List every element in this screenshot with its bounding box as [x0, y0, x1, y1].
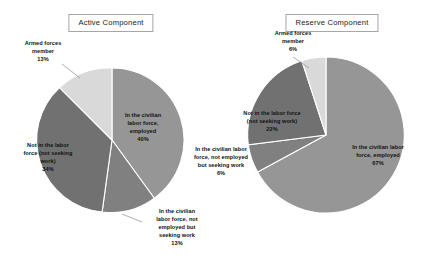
- leader-seeking-work: [122, 214, 142, 222]
- reserve-label-employed: In the civilian labor force, employed 67…: [336, 144, 420, 168]
- reserve-label-not-in-labor-force: Not in the labor force (not seeking work…: [226, 110, 318, 134]
- leader-armed-forces: [62, 64, 80, 78]
- reserve-pie-slices: [248, 57, 405, 213]
- active-label-employed: In the civilian labor force, employed 40…: [112, 112, 174, 144]
- reserve-component-panel: Reserve Component Armed: [221, 0, 443, 261]
- active-component-panel: Active Component: [0, 0, 222, 261]
- reserve-label-seeking-work: In the civilian labor force, not employe…: [176, 146, 266, 178]
- reserve-label-armed-forces: Armed forces member 6%: [257, 30, 329, 54]
- pie-chart-figure: Active Component: [0, 0, 443, 261]
- active-label-armed-forces: Armed forces member 13%: [6, 40, 80, 64]
- active-label-seeking-work: In the civilian labor force, not employe…: [140, 208, 214, 248]
- active-label-not-in-labor-force: Not in the labor force (not seeking work…: [10, 142, 86, 174]
